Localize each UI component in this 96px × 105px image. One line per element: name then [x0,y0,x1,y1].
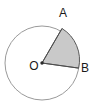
center-point-dot [40,61,43,64]
label-center-o: O [29,59,38,73]
label-point-a: A [59,6,67,20]
label-point-b: B [81,61,89,75]
circle-sector-figure: A B O [0,0,96,105]
geometry-diagram-svg: A B O [0,0,96,105]
